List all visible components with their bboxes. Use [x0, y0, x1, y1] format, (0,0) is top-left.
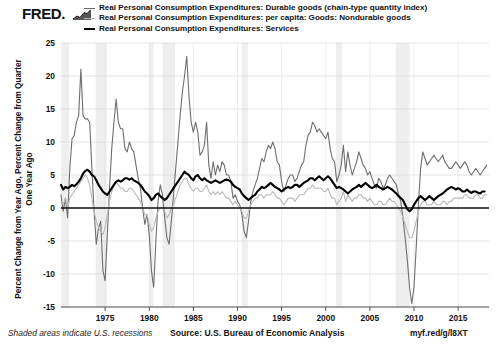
axis-lines — [61, 307, 489, 311]
y-tick-25: 25 — [46, 38, 56, 48]
x-tick-2005: 2005 — [361, 313, 380, 323]
y-tick--10: -10 — [43, 269, 55, 279]
gridlines — [61, 43, 489, 307]
y-tick--15: -15 — [43, 302, 55, 312]
x-tick-1975: 1975 — [96, 313, 115, 323]
x-tick-1985: 1985 — [184, 313, 203, 323]
line-chart: 2520151050-5-10-15 197519801985199019952… — [0, 0, 501, 348]
x-tick-labels: 197519801985199019952000200520102015 — [96, 313, 468, 323]
y-tick-20: 20 — [46, 71, 56, 81]
x-tick-1980: 1980 — [140, 313, 159, 323]
y-tick-5: 5 — [50, 170, 55, 180]
y-tick-10: 10 — [46, 137, 56, 147]
y-tick-labels: 2520151050-5-10-15 — [43, 38, 55, 312]
data-series-group — [61, 56, 487, 304]
x-tick-2010: 2010 — [405, 313, 424, 323]
chart-footer: Shaded areas indicate U.S. recessions So… — [0, 328, 501, 348]
x-tick-1995: 1995 — [272, 313, 291, 323]
x-tick-1990: 1990 — [228, 313, 247, 323]
y-tick-15: 15 — [46, 104, 56, 114]
y-tick--5: -5 — [48, 236, 56, 246]
short-url[interactable]: myf.red/g/l8XT — [410, 328, 468, 338]
source-note: Source: U.S. Bureau of Economic Analysis — [170, 328, 344, 338]
series-line-1 — [61, 175, 487, 238]
chart-plot-area: 2520151050-5-10-15 197519801985199019952… — [0, 0, 501, 348]
x-tick-2015: 2015 — [449, 313, 468, 323]
y-tick-0: 0 — [50, 203, 55, 213]
series-line-0 — [61, 56, 487, 304]
x-tick-2000: 2000 — [316, 313, 335, 323]
recession-note: Shaded areas indicate U.S. recessions — [8, 328, 152, 338]
